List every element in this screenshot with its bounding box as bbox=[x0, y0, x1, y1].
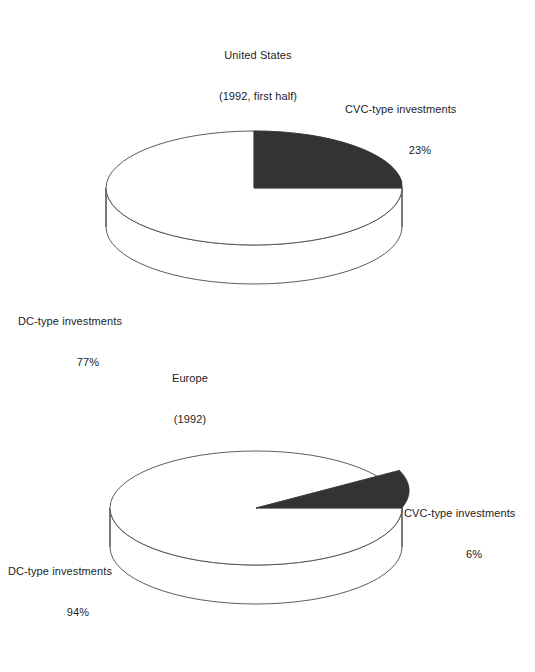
us-cvc-callout-value: 23% bbox=[345, 144, 495, 158]
us-cvc-callout: CVC-type investments 23% bbox=[345, 76, 495, 184]
eu-pie-3d bbox=[110, 451, 409, 604]
eu-pie-slice-cvc bbox=[256, 470, 409, 508]
eu-chart-title: Europe (1992) bbox=[90, 345, 290, 453]
us-title-main: United States bbox=[158, 49, 358, 63]
eu-title-main: Europe bbox=[90, 372, 290, 386]
eu-dc-callout-value: 94% bbox=[8, 606, 148, 620]
eu-pie-side-wall bbox=[110, 508, 402, 604]
us-chart-title: United States (1992, first half) bbox=[158, 22, 358, 130]
eu-dc-callout-name: DC-type investments bbox=[8, 565, 148, 579]
us-dc-callout-name: DC-type investments bbox=[18, 315, 158, 329]
us-pie-side-wall bbox=[106, 188, 402, 284]
eu-cvc-callout-name: CVC-type investments bbox=[404, 507, 535, 521]
eu-cvc-callout-value: 6% bbox=[404, 548, 535, 562]
eu-title-sub: (1992) bbox=[90, 413, 290, 427]
figure-root: United States (1992, first half) CVC-typ… bbox=[0, 0, 535, 672]
eu-dc-callout: DC-type investments 94% bbox=[8, 538, 148, 646]
us-cvc-callout-name: CVC-type investments bbox=[345, 103, 495, 117]
us-title-sub: (1992, first half) bbox=[158, 90, 358, 104]
eu-pie-slice-edge-start bbox=[256, 470, 400, 508]
eu-pie-top-face bbox=[110, 451, 402, 565]
eu-cvc-callout: CVC-type investments 6% bbox=[404, 480, 535, 588]
